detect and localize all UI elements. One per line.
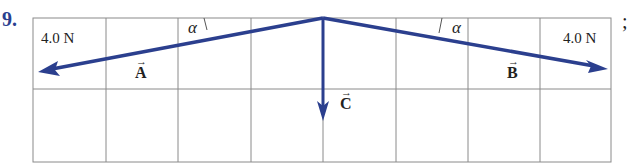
vector-arrow-accent: → (136, 55, 147, 67)
magnitude-label-b: 4.0 N (563, 30, 596, 47)
angle-arc-right (439, 18, 442, 33)
vector-a-label: →A (135, 64, 147, 82)
vector-c-arrow (317, 18, 329, 121)
vector-c-label: →C (340, 95, 352, 113)
vector-arrow-accent: → (341, 86, 352, 98)
angle-alpha-left: α (188, 18, 197, 38)
vector-arrow-accent: → (508, 55, 519, 67)
angle-alpha-right: α (452, 18, 461, 38)
vector-diagram (0, 0, 635, 166)
trailing-semicolon: ; (622, 10, 628, 33)
vector-b-label: →B (507, 64, 518, 82)
magnitude-label-a: 4.0 N (41, 30, 74, 47)
angle-arc-left (204, 18, 207, 30)
vector-a-arrow (38, 18, 323, 76)
